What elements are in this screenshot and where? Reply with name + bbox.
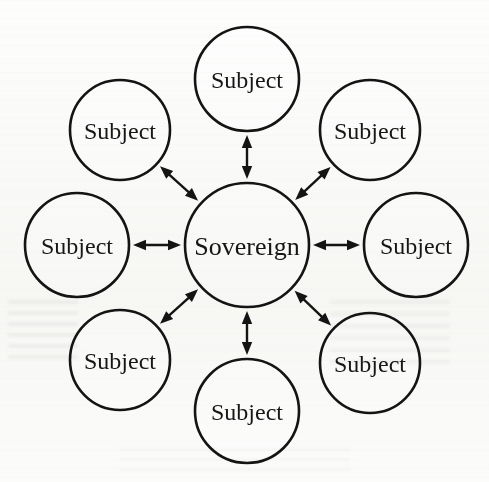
arrow-head-icon (347, 240, 360, 250)
node-subject-nw[interactable]: Subject (70, 80, 170, 180)
node-subject-e-label: Subject (380, 233, 452, 259)
edge-sovereign-to-subject-ne (295, 167, 330, 200)
node-subject-n-label: Subject (211, 67, 283, 93)
node-subject-w-label: Subject (41, 233, 113, 259)
node-subject-nw-label: Subject (84, 118, 156, 144)
node-subject-s-label: Subject (211, 399, 283, 425)
edge-sovereign-to-subject-se (295, 291, 331, 326)
node-subject-se[interactable]: Subject (320, 313, 420, 413)
node-subject-e[interactable]: Subject (364, 193, 468, 297)
node-sovereign[interactable]: Sovereign (185, 183, 309, 307)
arrow-head-icon (168, 240, 181, 250)
node-subject-se-label: Subject (334, 351, 406, 377)
hub-and-spoke-diagram: SubjectSubjectSubjectSubjectSubjectSubje… (0, 0, 489, 482)
arrow-head-icon (242, 342, 252, 355)
node-subject-ne-label: Subject (334, 118, 406, 144)
edge-sovereign-to-subject-nw (160, 166, 198, 200)
edge-sovereign-to-subject-e (313, 240, 360, 250)
arrow-head-icon (242, 135, 252, 148)
node-subject-sw[interactable]: Subject (70, 310, 170, 410)
edge-sovereign-to-subject-w (133, 240, 181, 250)
diagram-canvas: SubjectSubjectSubjectSubjectSubjectSubje… (0, 0, 489, 482)
node-subject-sw-label: Subject (84, 348, 156, 374)
edge-sovereign-to-subject-s (242, 311, 252, 355)
arrow-head-icon (313, 240, 326, 250)
node-subject-ne[interactable]: Subject (320, 80, 420, 180)
arrow-head-icon (242, 311, 252, 324)
arrow-head-icon (133, 240, 146, 250)
node-subject-w[interactable]: Subject (25, 193, 129, 297)
node-sovereign-label: Sovereign (194, 232, 299, 261)
nodes-layer: SubjectSubjectSubjectSubjectSubjectSubje… (25, 27, 468, 463)
edge-sovereign-to-subject-sw (160, 289, 198, 323)
arrow-head-icon (242, 166, 252, 179)
node-subject-s[interactable]: Subject (195, 359, 299, 463)
edge-sovereign-to-subject-n (242, 135, 252, 179)
node-subject-n[interactable]: Subject (195, 27, 299, 131)
